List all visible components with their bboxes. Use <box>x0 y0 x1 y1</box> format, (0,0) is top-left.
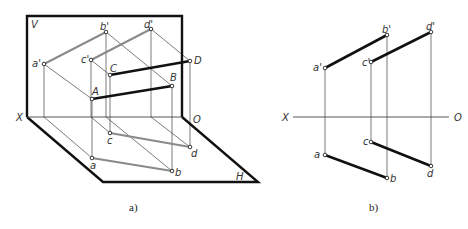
segment-a-prime-b-prime-b <box>325 35 387 68</box>
label-O-a: O <box>193 114 201 125</box>
points-b <box>323 30 433 180</box>
line-CD <box>110 61 190 75</box>
segments-b <box>325 32 431 178</box>
label-H: H <box>236 171 244 182</box>
projection-lines-b <box>325 32 431 178</box>
segment-cd-b <box>371 142 431 166</box>
caption-b: b) <box>369 201 379 214</box>
figure-b: X O a' b' c' d' a b c d b) <box>281 21 462 214</box>
segment-c-prime-d-prime-b <box>371 32 431 62</box>
segment-cd <box>110 133 190 147</box>
descriptive-geometry-figure: V H X O a' b' c' d' A B C D a b c d a) <box>0 0 468 229</box>
label-c-a: c <box>107 135 113 146</box>
h-plane-frame <box>27 117 258 182</box>
caption-a: a) <box>129 201 138 214</box>
figure-a: V H X O a' b' c' d' A B C D a b c d a) <box>15 16 258 214</box>
label-O-b: O <box>454 112 462 123</box>
label-X-a: X <box>15 112 24 123</box>
label-a-prime-b: a' <box>313 62 322 73</box>
label-c-prime-b: c' <box>362 57 370 68</box>
segment-ab <box>92 158 172 171</box>
label-b-prime-a: b' <box>100 21 109 32</box>
projection-planes <box>27 16 258 182</box>
points-a <box>42 27 192 173</box>
label-C: C <box>110 63 117 74</box>
label-D: D <box>194 55 202 66</box>
label-b-prime-b: b' <box>382 24 391 35</box>
label-X-b: X <box>281 112 290 123</box>
label-c-b: c <box>363 136 369 147</box>
segment-c-prime-d-prime <box>91 29 151 60</box>
label-d-prime-a: d' <box>144 19 153 30</box>
label-b-b: b <box>390 173 396 184</box>
segment-a-prime-b-prime <box>44 32 106 64</box>
segment-ab-b <box>325 155 387 178</box>
label-d-b: d <box>427 168 434 179</box>
line-AB <box>92 86 172 99</box>
label-B: B <box>170 72 177 83</box>
label-b-a: b <box>175 167 181 178</box>
label-a-a: a <box>90 160 96 171</box>
label-a-prime-a: a' <box>32 58 41 69</box>
label-A: A <box>91 86 99 97</box>
label-c-prime-a: c' <box>81 54 89 65</box>
label-a-b: a <box>314 149 320 160</box>
label-d-prime-b: d' <box>426 21 435 32</box>
label-d-a: d <box>191 148 198 159</box>
label-V: V <box>31 19 39 30</box>
